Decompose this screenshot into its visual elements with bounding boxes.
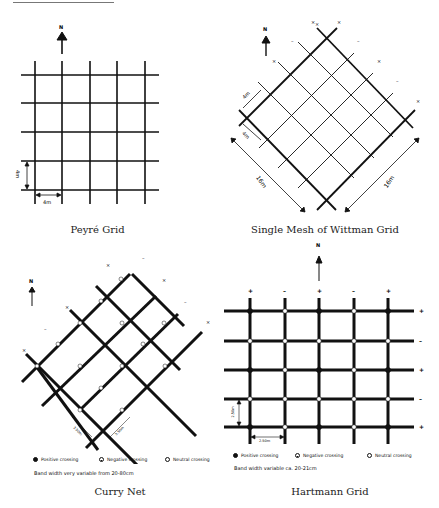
- dim-horizontal-label: 2.50m: [259, 439, 270, 443]
- legend-positive: Positive crossing: [233, 453, 278, 458]
- curry-marker: ×: [162, 277, 166, 283]
- column-sign: +: [386, 287, 391, 294]
- row-sign: +: [419, 307, 424, 314]
- north-arrow-icon: [262, 36, 270, 56]
- positive-crossing-icon: [33, 457, 38, 462]
- row-sign: +: [419, 366, 424, 373]
- wittman-marker: ×: [377, 58, 381, 64]
- curry-legend: Positive crossing Negative crossing Neut…: [33, 457, 213, 465]
- legend-negative-label: Negative crossing: [107, 457, 147, 462]
- legend-positive-label: Positive crossing: [41, 457, 78, 462]
- legend-negative-label: Negative crossing: [303, 453, 343, 458]
- curry-marker: ×: [206, 319, 210, 325]
- hartmann-band-note: Band width variable ca. 20-21cm: [234, 465, 317, 471]
- column-sign: +: [317, 287, 322, 294]
- peyre-grid-diagram: [0, 0, 220, 254]
- curry-marker: ×: [106, 262, 110, 268]
- north-label: N: [29, 278, 33, 284]
- row-sign: +: [419, 423, 424, 430]
- curry-band-note: Band width very variable from 20-80cm: [34, 470, 134, 476]
- curry-marker: –: [44, 326, 47, 332]
- wittman-grid-diagram: ×: [220, 0, 439, 254]
- neutral-crossing-icon: [165, 457, 170, 462]
- column-sign: –: [352, 287, 355, 294]
- legend-positive: Positive crossing: [33, 457, 78, 462]
- svg-text:×: ×: [315, 21, 319, 27]
- row-sign: –: [419, 395, 422, 402]
- dim-horizontal-label: 4m: [43, 199, 51, 205]
- dim-vertical-label: 2.50m: [231, 406, 235, 417]
- north-arrow-icon: [29, 287, 35, 306]
- legend-neutral-label: Neutral crossing: [173, 457, 210, 462]
- negative-crossing-icon: [295, 453, 300, 458]
- column-sign: +: [248, 287, 253, 294]
- wittman-marker: ×: [416, 98, 420, 104]
- north-label: N: [263, 26, 267, 32]
- legend-neutral-label: Neutral crossing: [375, 453, 412, 458]
- negative-crossing-icon: [99, 457, 104, 462]
- curry-marker: ×: [65, 304, 69, 310]
- curry-net-panel: N × – × – × × – × 3.50m 3.50m Positive c…: [0, 254, 220, 508]
- wittman-marker: –: [357, 38, 360, 44]
- hartmann-grid-panel: N + – + – + + – + – + 2.50m 2.50m Positi…: [220, 254, 439, 508]
- wittman-marker: –: [396, 78, 399, 84]
- north-label: N: [59, 24, 63, 30]
- curry-net-diagram: [0, 254, 220, 464]
- wittman-marker: ×: [272, 58, 276, 64]
- curry-marker: –: [142, 255, 145, 261]
- peyre-grid-panel: N 4m 4m Peyré Grid: [0, 0, 220, 254]
- dim-vertical-label: 4m: [15, 170, 21, 178]
- wittman-grid-panel: × N × × – × – × – × 4m 4m 16m 16m Single…: [220, 0, 439, 254]
- north-label: N: [316, 242, 320, 248]
- legend-negative: Negative crossing: [99, 457, 147, 462]
- wittman-marker: ×: [311, 19, 315, 25]
- hartmann-legend: Positive crossing Negative crossing Neut…: [233, 453, 423, 461]
- neutral-crossing-icon: [367, 453, 372, 458]
- positive-crossing-icon: [233, 453, 238, 458]
- legend-neutral: Neutral crossing: [165, 457, 210, 462]
- wittman-grid-caption: Single Mesh of Wittman Grid: [250, 224, 400, 235]
- wittman-marker: ×: [337, 19, 341, 25]
- column-sign: –: [283, 287, 286, 294]
- wittman-marker: –: [291, 38, 294, 44]
- curry-marker: ×: [22, 347, 26, 353]
- row-sign: –: [419, 337, 422, 344]
- curry-net-caption: Curry Net: [85, 486, 155, 497]
- hartmann-grid-diagram: [220, 254, 439, 454]
- north-arrow-icon: [316, 256, 322, 281]
- peyre-grid-caption: Peyré Grid: [60, 224, 135, 235]
- hartmann-grid-caption: Hartmann Grid: [285, 486, 375, 497]
- curry-marker: –: [184, 299, 187, 305]
- north-arrow-icon: [57, 32, 67, 54]
- legend-positive-label: Positive crossing: [241, 453, 278, 458]
- legend-negative: Negative crossing: [295, 453, 343, 458]
- legend-neutral: Neutral crossing: [367, 453, 412, 458]
